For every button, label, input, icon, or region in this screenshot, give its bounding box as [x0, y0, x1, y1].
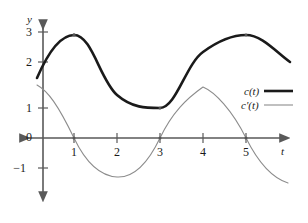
- x-axis-label: t: [281, 146, 284, 157]
- x-tick-label-4: 4: [195, 146, 211, 158]
- graph-figure: y t 3 2 1 0 −1 1 2 3 4 5 c(t) c'(t): [0, 0, 308, 223]
- y-tick-label-2: 2: [10, 56, 32, 68]
- y-tick-label-minus-1: −1: [4, 162, 26, 174]
- x-tick-label-3: 3: [152, 146, 168, 158]
- legend-label-c-prime: c'(t): [241, 100, 259, 111]
- y-tick-label-0: 0: [10, 131, 32, 143]
- curve-c: [37, 35, 290, 108]
- x-tick-label-1: 1: [66, 146, 82, 158]
- x-tick-label-5: 5: [238, 146, 254, 158]
- plot-canvas: [0, 0, 308, 223]
- x-tick-label-2: 2: [109, 146, 125, 158]
- marked-points: [72, 33, 247, 139]
- y-tick-label-1: 1: [10, 102, 32, 114]
- y-axis-label: y: [27, 14, 32, 25]
- y-tick-label-3: 3: [10, 26, 32, 38]
- legend-label-c: c(t): [244, 86, 259, 97]
